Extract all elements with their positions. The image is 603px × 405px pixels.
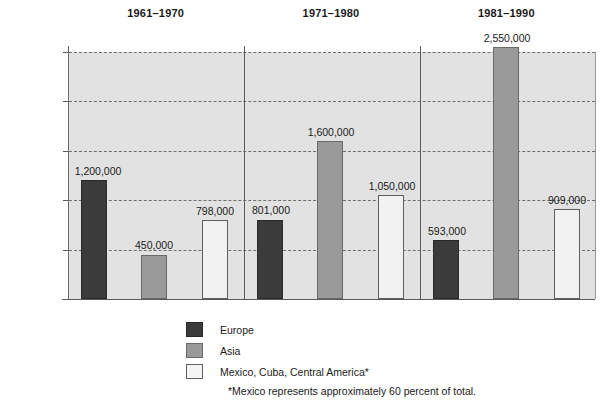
bar-mexico-cuba-central-america-1971-1980[interactable] — [378, 195, 404, 299]
bar-asia-1981-1990[interactable] — [493, 47, 519, 299]
legend-label-mexico-cuba-central-america: Mexico, Cuba, Central America* — [220, 366, 369, 378]
period-header-1961-1970: 1961–1970 — [68, 6, 243, 26]
bar-label-asia-1971-1980: 1,600,000 — [298, 127, 364, 138]
bar-europe-1971-1980[interactable] — [257, 220, 283, 299]
bar-label-mexico-1961-1970: 798,000 — [184, 206, 246, 217]
bar-label-asia-1961-1970: 450,000 — [124, 240, 184, 251]
chart-footnote: *Mexico represents approximately 60 perc… — [228, 385, 476, 397]
bar-label-asia-1981-1990: 2,550,000 — [474, 33, 540, 44]
legend-swatch-europe-icon — [186, 322, 203, 337]
bar-mexico-cuba-central-america-1981-1990[interactable] — [554, 209, 580, 299]
x-axis-baseline — [62, 299, 595, 300]
bar-label-europe-1961-1970: 1,200,000 — [65, 166, 131, 177]
period-header-1981-1990: 1981–1990 — [419, 6, 594, 26]
bar-europe-1981-1990[interactable] — [433, 240, 459, 299]
chart-legend: Europe Asia Mexico, Cuba, Central Americ… — [186, 320, 486, 383]
legend-item-europe[interactable]: Europe — [186, 320, 486, 339]
bar-europe-1961-1970[interactable] — [81, 180, 107, 299]
tick-mark-500000 — [63, 250, 68, 251]
legend-swatch-asia-icon — [186, 343, 203, 358]
legend-label-asia: Asia — [220, 345, 240, 357]
bar-label-europe-1981-1990: 593,000 — [417, 226, 477, 237]
legend-swatch-mexico-icon — [186, 364, 203, 379]
bar-label-europe-1971-1980: 801,000 — [241, 205, 301, 216]
tick-mark-2000000 — [63, 101, 68, 102]
tick-mark-2500000 — [63, 52, 68, 53]
legend-item-mexico-cuba-central-america[interactable]: Mexico, Cuba, Central America* — [186, 362, 486, 381]
group-separator-1 — [244, 46, 245, 299]
period-header-row: 1961–1970 1971–1980 1981–1990 — [68, 6, 594, 26]
bar-asia-1971-1980[interactable] — [317, 141, 343, 299]
legend-item-asia[interactable]: Asia — [186, 341, 486, 360]
bar-asia-1961-1970[interactable] — [141, 255, 167, 300]
group-separator-2 — [420, 46, 421, 299]
chart-plot-area: 1,200,000 450,000 798,000 801,000 1,600,… — [68, 52, 596, 299]
tick-mark-1500000 — [63, 151, 68, 152]
tick-mark-1000000 — [63, 200, 68, 201]
period-header-1971-1980: 1971–1980 — [243, 6, 418, 26]
bar-label-mexico-1971-1980: 1,050,000 — [359, 181, 425, 192]
legend-label-europe: Europe — [220, 324, 254, 336]
bar-label-mexico-1981-1990: 909,000 — [536, 195, 598, 206]
bar-mexico-cuba-central-america-1961-1970[interactable] — [202, 220, 228, 299]
